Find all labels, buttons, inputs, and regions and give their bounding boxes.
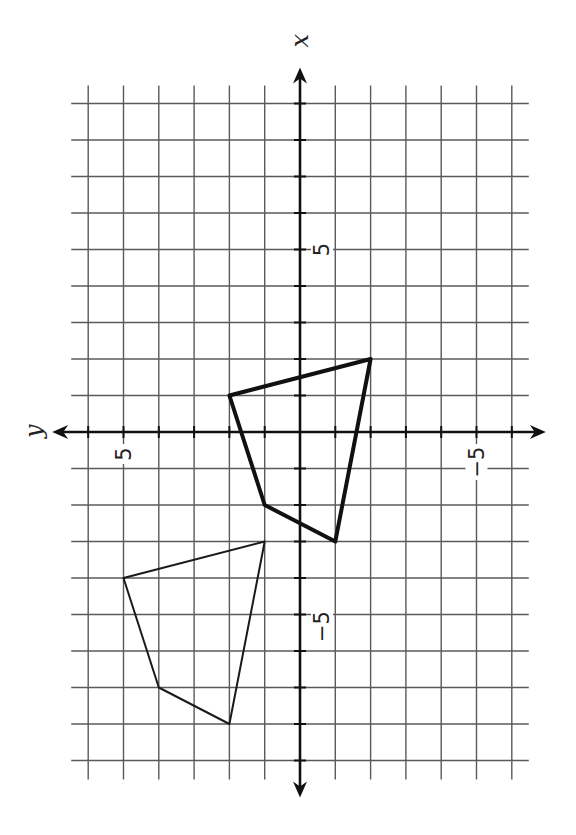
x-axis-label: x	[286, 34, 314, 48]
x-tick-label: 5	[310, 243, 334, 256]
labels: x y 5−55−5	[20, 34, 488, 645]
y-axis-label: y	[20, 424, 48, 439]
y-tick-label: −5	[465, 447, 489, 478]
y-tick-label: 5	[112, 447, 136, 460]
x-tick-label: −5	[310, 611, 334, 642]
coordinate-plane: x y 5−55−5	[0, 0, 576, 835]
